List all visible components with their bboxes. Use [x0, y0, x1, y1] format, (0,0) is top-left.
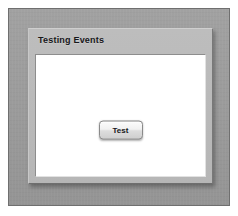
screenshot-root: Testing Events Test	[0, 0, 238, 216]
testing-events-panel: Testing Events Test	[28, 28, 213, 184]
window-frame: Testing Events Test	[8, 8, 230, 206]
panel-content-area: Test	[35, 54, 206, 177]
page-title: Testing Events	[38, 35, 104, 45]
test-button[interactable]: Test	[99, 121, 143, 140]
panel-titlebar[interactable]: Testing Events	[29, 29, 212, 54]
